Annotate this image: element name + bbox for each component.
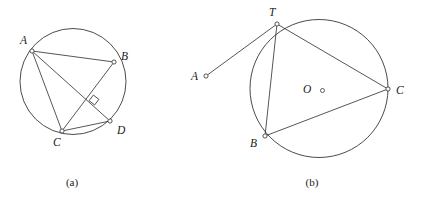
point-label-T: T <box>269 6 277 18</box>
chord-AB <box>34 51 112 61</box>
panel-a: A B C D (a) <box>19 29 128 190</box>
point-label-C: C <box>53 136 61 148</box>
point-label-B: B <box>121 50 128 62</box>
point-label-A: A <box>190 70 199 82</box>
external-point-dot-A <box>204 74 208 78</box>
vertex-dot-B <box>112 60 116 64</box>
point-label-A: A <box>19 34 28 46</box>
point-label-C: C <box>396 84 404 96</box>
vertex-dot-C <box>60 129 64 133</box>
panel-b: T B C A O (b) <box>190 6 404 189</box>
vertex-dot-T <box>275 22 279 26</box>
center-label-O: O <box>303 83 312 95</box>
geometry-figure: A B C D (a) T B C A O (b) <box>0 0 425 202</box>
chord-BC <box>267 90 386 136</box>
panel-b-circle <box>250 20 388 158</box>
vertex-dot-B <box>263 134 267 138</box>
vertex-dot-A <box>30 49 34 53</box>
chord-TC <box>279 25 386 88</box>
tangent-line-AT <box>208 25 276 75</box>
vertex-dot-D <box>108 119 112 123</box>
point-label-D: D <box>116 124 126 136</box>
figure-canvas: A B C D (a) T B C A O (b) <box>0 0 425 202</box>
chord-BC <box>63 64 112 130</box>
panel-a-caption: (a) <box>66 176 79 189</box>
panel-b-caption: (b) <box>306 176 319 189</box>
point-label-B: B <box>250 137 257 149</box>
chord-TB <box>265 26 277 134</box>
vertex-dot-C <box>386 87 390 91</box>
circle-center-dot-O <box>321 89 325 93</box>
